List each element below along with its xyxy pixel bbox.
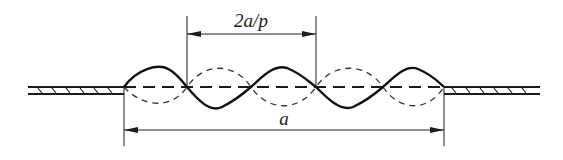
span-dimension: a bbox=[124, 87, 444, 146]
right-support-plate bbox=[444, 87, 540, 94]
span-label: a bbox=[279, 108, 289, 129]
buckling-diagram: 2a/p a bbox=[0, 0, 563, 160]
left-support-plate bbox=[28, 87, 124, 94]
half-wave-label: 2a/p bbox=[234, 10, 268, 31]
half-wave-dimension: 2a/p bbox=[187, 10, 316, 87]
